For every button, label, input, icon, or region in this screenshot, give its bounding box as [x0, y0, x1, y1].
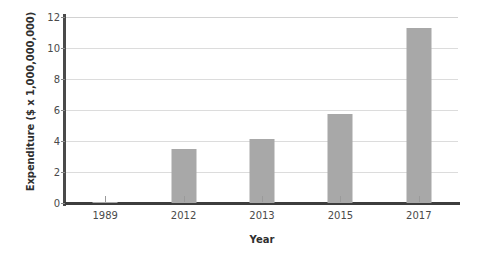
y-axis-tick-label: 8 [34, 74, 60, 85]
x-axis-tick-labels: 19892012201320152017 [66, 210, 458, 226]
x-axis-tick-mark [184, 196, 185, 202]
x-axis-title: Year [66, 234, 458, 245]
y-axis-tick-label: 6 [34, 105, 60, 116]
y-axis-tick-label: 12 [34, 12, 60, 23]
y-axis-tick-mark [61, 48, 65, 49]
y-axis-tick-mark [61, 141, 65, 142]
y-axis-tick-labels: 024681012 [32, 17, 60, 203]
y-axis-tick-label: 10 [34, 43, 60, 54]
bars-group [66, 17, 458, 203]
x-axis-tick-label: 2012 [154, 210, 214, 221]
x-axis-tick-mark [105, 196, 106, 202]
y-axis-tick-mark [61, 172, 65, 173]
y-axis-tick-mark [61, 17, 65, 18]
x-axis-tick-label: 2017 [389, 210, 449, 221]
y-axis-tick-mark [61, 79, 65, 80]
bar-slot [223, 17, 301, 203]
bar-slot [66, 17, 144, 203]
y-axis-tick-mark [61, 203, 65, 204]
x-axis-tick-label: 2015 [310, 210, 370, 221]
x-axis-tick-mark [340, 196, 341, 202]
x-axis-tick-label: 1989 [75, 210, 135, 221]
bar-slot [380, 17, 458, 203]
bar [406, 28, 431, 203]
y-axis-tick-label: 0 [34, 198, 60, 209]
bar-chart: Expenditure ($ x 1,000,000,000) 02468101… [0, 0, 481, 259]
bar-slot [301, 17, 379, 203]
bar-slot [144, 17, 222, 203]
y-axis-tick-label: 2 [34, 167, 60, 178]
bar [171, 149, 196, 203]
y-axis-tick-mark [61, 110, 65, 111]
bar [249, 139, 274, 203]
x-axis-tick-label: 2013 [232, 210, 292, 221]
x-axis-tick-mark [419, 196, 420, 202]
y-axis-tick-label: 4 [34, 136, 60, 147]
bar [328, 114, 353, 203]
x-axis-tick-marks [66, 196, 458, 204]
x-axis-tick-mark [262, 196, 263, 202]
